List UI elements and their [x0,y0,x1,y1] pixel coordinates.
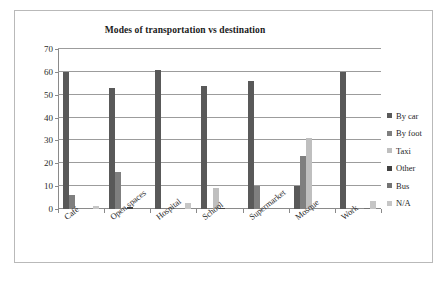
legend-item: By foot [387,125,447,143]
y-tick-label: 50 [44,90,53,100]
y-tick-label: 10 [44,181,53,191]
y-tick-label: 40 [44,113,53,123]
y-tick-mark [55,163,58,164]
legend-label: By foot [396,128,422,138]
y-tick-label: 30 [44,135,53,145]
bar [185,203,191,209]
y-tick-mark [55,186,58,187]
bar-group [63,49,103,209]
y-tick-mark [55,95,58,96]
x-axis-labels: CaféOpen spacesHospitalSchoolSupermarket… [58,211,388,267]
legend-item: By car [387,107,447,125]
legend-swatch-icon [387,113,392,118]
legend-label: Other [396,163,415,173]
y-tick-label: 60 [44,67,53,77]
bar [93,206,99,209]
legend-swatch-icon [387,131,392,136]
legend-swatch-icon [387,201,392,206]
legend-swatch-icon [387,183,392,188]
bar-group [294,49,334,209]
legend-label: By car [396,111,418,121]
bar [370,201,376,209]
y-tick-mark [55,49,58,50]
legend-swatch-icon [387,166,392,171]
bar [201,86,207,209]
bar [340,72,346,209]
bar-group [340,49,380,209]
legend-label: Bus [396,181,409,191]
y-tick-label: 70 [44,44,53,54]
bar [63,72,69,209]
legend-label: Taxi [396,146,411,156]
plot-area: 010203040506070 [58,49,381,209]
chart-title: Modes of transportation vs destination [15,25,355,35]
y-tick-label: 0 [49,204,54,214]
y-tick-label: 20 [44,158,53,168]
legend-item: Taxi [387,142,447,160]
legend-label: N/A [396,198,411,208]
bar-group [155,49,195,209]
y-tick-mark [55,72,58,73]
chart-frame: Modes of transportation vs destination 0… [14,10,433,263]
chart-legend: By carBy footTaxiOtherBusN/A [387,107,447,212]
bar-group [248,49,288,209]
bar-group [109,49,149,209]
y-tick-mark [55,118,58,119]
legend-item: Bus [387,177,447,195]
legend-item: Other [387,160,447,178]
bar [155,70,161,209]
legend-swatch-icon [387,148,392,153]
y-tick-mark [55,140,58,141]
bar-group [201,49,241,209]
legend-item: N/A [387,195,447,213]
